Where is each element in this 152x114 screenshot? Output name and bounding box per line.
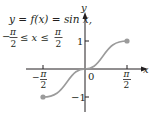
domain-inequality: ≤ x ≤: [20, 32, 49, 43]
neg-pi-half-two: 2: [41, 80, 47, 90]
domain-two-1: 2: [11, 39, 17, 49]
pi-half-two: 2: [124, 80, 130, 90]
origin-label: 0: [88, 71, 94, 82]
y-tick-label-1: 1: [77, 36, 83, 47]
neg-pi-half-pi: π: [40, 69, 48, 79]
sine-graph: y = f(x) = sin x, − π 2 ≤ x ≤ π 2 y x 1 …: [0, 0, 152, 114]
neg-pi-half-minus: −: [32, 72, 40, 82]
x-axis-label: x: [143, 64, 149, 75]
y-axis-label: y: [80, 2, 87, 13]
y-tick-label-neg1: −1: [71, 92, 86, 103]
domain-two-2: 2: [56, 39, 62, 49]
left-endpoint-dot: [40, 94, 45, 99]
equation-label: y = f(x) = sin x,: [8, 13, 92, 25]
pi-half-pi: π: [123, 69, 131, 79]
domain-pi-2: π: [54, 27, 62, 37]
domain-pi-1: π: [9, 27, 17, 37]
right-endpoint-dot: [124, 38, 129, 43]
